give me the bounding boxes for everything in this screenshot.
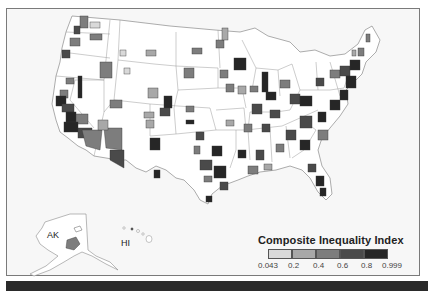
legend-ticks: 0.043 0.2 0.4 0.6 0.8 0.999 bbox=[258, 261, 418, 271]
legend-tick: 0.4 bbox=[313, 261, 324, 270]
alaska-label: AK bbox=[47, 230, 59, 240]
legend-tick: 0.6 bbox=[337, 261, 348, 270]
legend-tick: 0.999 bbox=[382, 261, 402, 270]
legend-tick: 0.2 bbox=[288, 261, 299, 270]
legend-swatch-3 bbox=[316, 249, 340, 259]
legend-swatch-1 bbox=[268, 249, 292, 259]
legend-title: Composite Inequality Index bbox=[258, 234, 418, 246]
legend-tick: 0.8 bbox=[361, 261, 372, 270]
legend-swatch-2 bbox=[292, 249, 316, 259]
legend-swatch-4 bbox=[340, 249, 364, 259]
legend-color-scale bbox=[268, 249, 418, 259]
legend: Composite Inequality Index 0.043 0.2 0.4… bbox=[258, 234, 418, 271]
legend-tick: 0.043 bbox=[258, 261, 278, 270]
hawaii-label: HI bbox=[121, 238, 130, 248]
legend-swatch-5 bbox=[364, 249, 388, 259]
bottom-rule bbox=[6, 281, 428, 291]
